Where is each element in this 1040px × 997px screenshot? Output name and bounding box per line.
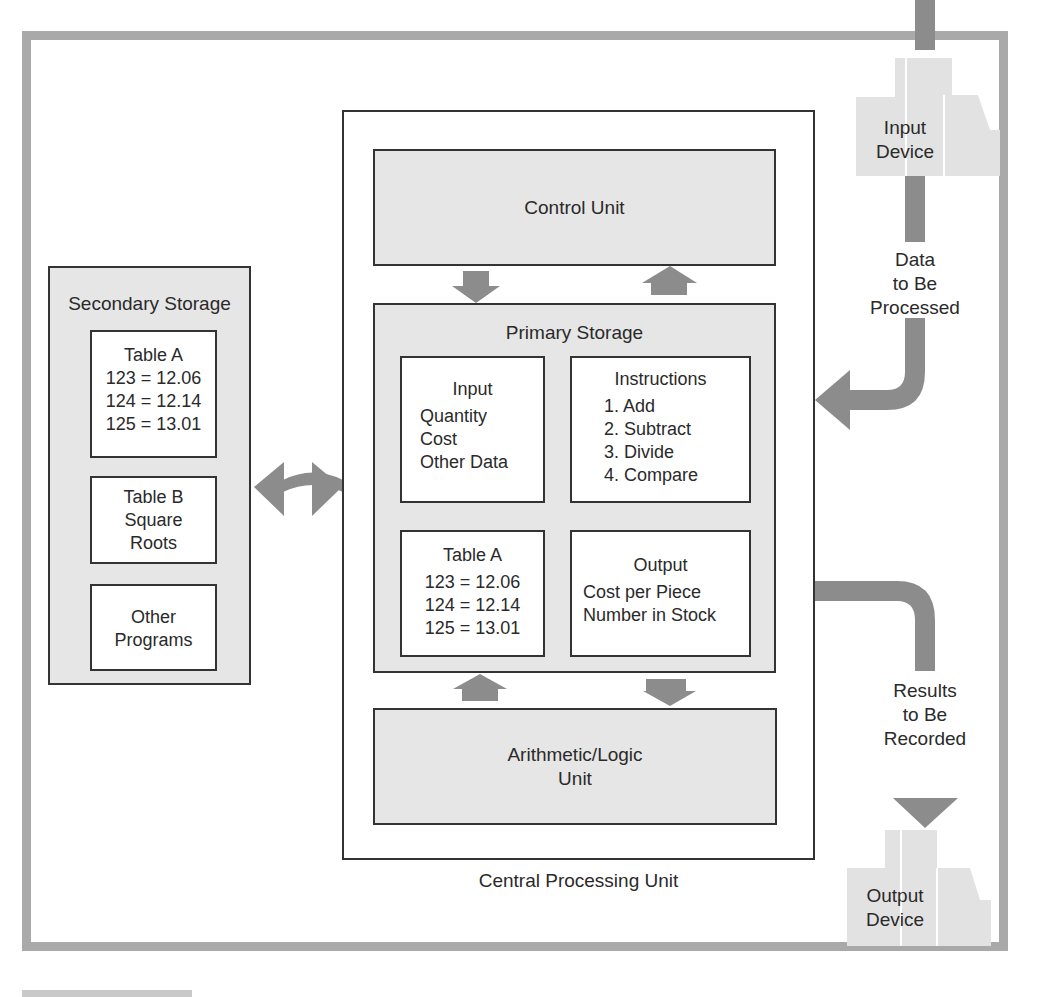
secondary-table-a-row: 124 = 12.14 [92, 390, 215, 413]
input-device-label: Input Device [860, 116, 950, 164]
instruction-item: 4. Compare [604, 464, 749, 487]
alu-line2: Unit [375, 767, 775, 791]
primary-input-item: Cost [420, 428, 543, 451]
other-programs-line2: Programs [92, 629, 215, 652]
primary-output-title: Output [572, 554, 749, 577]
primary-storage-title: Primary Storage [375, 321, 774, 345]
secondary-table-a-row: 123 = 12.06 [92, 367, 215, 390]
secondary-table-a-title: Table A [92, 344, 215, 367]
primary-table-a-box: Table A 123 = 12.06 124 = 12.14 125 = 13… [400, 530, 545, 657]
input-flow-line2: to Be [860, 272, 970, 296]
instruction-item: 1. Add [604, 395, 749, 418]
primary-input-item: Other Data [420, 451, 543, 474]
primary-output-item: Cost per Piece [583, 581, 749, 604]
bidirectional-arrow-icon [254, 462, 343, 516]
secondary-table-a-row: 125 = 13.01 [92, 413, 215, 436]
primary-storage-panel: Primary Storage Input Quantity Cost Othe… [373, 303, 776, 673]
input-flow-line1: Data [860, 248, 970, 272]
output-device-line2: Device [850, 908, 940, 932]
alu-box: Arithmetic/Logic Unit [373, 708, 777, 825]
secondary-table-a-box: Table A 123 = 12.06 124 = 12.14 125 = 13… [90, 330, 217, 458]
table-b-title: Table B [92, 486, 215, 509]
other-programs-box: Other Programs [90, 584, 217, 671]
alu-line1: Arithmetic/Logic [375, 743, 775, 767]
primary-table-a-title: Table A [402, 544, 543, 567]
primary-output-box: Output Cost per Piece Number in Stock [570, 530, 751, 657]
primary-input-box: Input Quantity Cost Other Data [400, 356, 545, 503]
output-device-label: Output Device [850, 884, 940, 932]
primary-input-title: Input [402, 378, 543, 401]
primary-table-a-row: 123 = 12.06 [402, 571, 543, 594]
secondary-storage-title: Secondary Storage [50, 292, 249, 316]
cpu-label: Central Processing Unit [342, 869, 815, 893]
primary-output-item: Number in Stock [583, 604, 749, 627]
instructions-box: Instructions 1. Add 2. Subtract 3. Divid… [570, 356, 751, 503]
table-b-line2: Roots [92, 532, 215, 555]
control-unit-box: Control Unit [373, 149, 776, 266]
control-unit-label: Control Unit [375, 196, 774, 220]
input-device-line1: Input [860, 116, 950, 140]
input-device-line2: Device [860, 140, 950, 164]
secondary-storage-panel: Secondary Storage Table A 123 = 12.06 12… [48, 266, 251, 685]
primary-table-a-row: 125 = 13.01 [402, 617, 543, 640]
secondary-table-b-box: Table B Square Roots [90, 476, 217, 564]
primary-table-a-row: 124 = 12.14 [402, 594, 543, 617]
output-flow-line1: Results [870, 679, 980, 703]
instruction-item: 2. Subtract [604, 418, 749, 441]
data-to-be-processed-label: Data to Be Processed [860, 248, 970, 320]
clipped-caption [22, 990, 192, 997]
primary-input-item: Quantity [420, 405, 543, 428]
instructions-title: Instructions [572, 368, 749, 391]
output-flow-line3: Recorded [870, 727, 980, 751]
output-flow-line2: to Be [870, 703, 980, 727]
output-device-line1: Output [850, 884, 940, 908]
table-b-line1: Square [92, 509, 215, 532]
instruction-item: 3. Divide [604, 441, 749, 464]
other-programs-line1: Other [92, 606, 215, 629]
results-to-be-recorded-label: Results to Be Recorded [870, 679, 980, 751]
input-flow-line3: Processed [860, 296, 970, 320]
